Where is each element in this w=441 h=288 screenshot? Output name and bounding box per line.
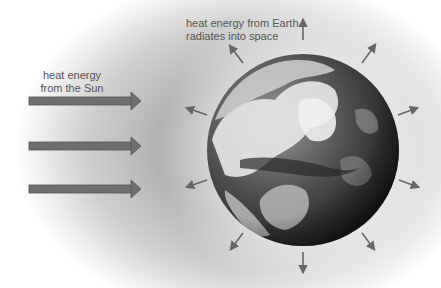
- incoming-arrows: [29, 92, 141, 198]
- diagram-art: [0, 0, 441, 288]
- sun-energy-label: heat energy from the Sun: [28, 69, 116, 95]
- radiate-right-upper: [398, 108, 417, 115]
- radiate-upper-left: [230, 46, 243, 63]
- earth-globe: [207, 54, 399, 246]
- sun-arrow-3: [29, 180, 141, 198]
- radiate-lower-left: [231, 233, 243, 249]
- radiate-left-lower: [187, 180, 207, 187]
- radiate-right-lower: [399, 180, 418, 187]
- sun-arrow-2: [29, 137, 141, 155]
- radiate-upper-right: [362, 45, 375, 63]
- heat-energy-diagram: heat energy from the Sun heat energy fro…: [0, 0, 441, 288]
- radiate-lower-right: [362, 233, 374, 249]
- radiate-left-upper: [187, 108, 207, 115]
- earth-radiation-label: heat energy from Earth radiates into spa…: [186, 17, 326, 43]
